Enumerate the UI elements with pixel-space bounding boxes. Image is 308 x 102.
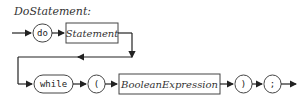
- terminal-lparen: (: [88, 75, 105, 93]
- terminal-do-label: do: [37, 28, 48, 38]
- terminal-semicolon: ;: [264, 75, 281, 93]
- nonterminal-statement-label: Statement: [66, 28, 120, 39]
- nonterminal-boolean-expression: BooleanExpression: [119, 74, 220, 94]
- terminal-while: while: [34, 75, 73, 93]
- nonterminal-boolean-label: BooleanExpression: [120, 79, 218, 90]
- terminal-do: do: [33, 24, 52, 42]
- terminal-while-label: while: [40, 79, 67, 89]
- nonterminal-statement: Statement: [66, 23, 120, 43]
- terminal-semicolon-label: ;: [270, 79, 275, 89]
- diagram-title: DoStatement:: [13, 5, 91, 18]
- terminal-rparen-label: ): [241, 79, 246, 89]
- terminal-rparen: ): [235, 75, 252, 93]
- do-statement-diagram: DoStatement: do Statement while ( Boolea…: [0, 0, 308, 102]
- terminal-lparen-label: (: [94, 79, 99, 89]
